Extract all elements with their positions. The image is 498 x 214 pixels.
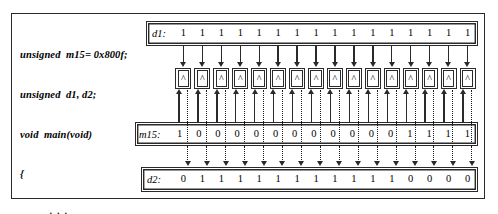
bit-d2-11: 1 [382,174,401,185]
arrowhead-down [374,161,380,166]
bit-d1-12: 1 [401,28,420,39]
dotted-connector [433,146,434,162]
code-line-ellipsis: . . . [20,207,138,211]
xor-symbol: ^ [276,73,281,83]
code-line: unsigned m15= 0x800f; [20,48,138,61]
dotted-connector [377,146,378,162]
solid-connector [443,94,444,122]
dotted-connector [433,90,434,122]
arrowhead-down [445,62,451,67]
bit-d1-2: 1 [212,28,231,39]
bit-d1-13: 1 [420,28,439,39]
register-row-d2: d2: 0111111111110000 [141,167,478,192]
bit-d1-15: 1 [458,28,477,39]
arrowhead-down [237,62,243,67]
dotted-connector [452,146,453,162]
xor-symbol: ^ [446,73,451,83]
xor-symbol: ^ [427,73,432,83]
arrowhead-down [242,161,248,166]
bit-d1-9: 1 [344,28,363,39]
solid-connector [292,94,293,122]
xor-gate-4: ^ [251,68,267,89]
arrowhead-up [270,89,276,94]
bit-d2-9: 1 [344,174,363,185]
solid-connector [424,94,425,122]
dotted-connector [282,90,283,122]
xor-gate-13: ^ [422,68,438,89]
xor-operation-figure: unsigned m15= 0x800f; unsigned d1, d2; v… [0,0,498,211]
solid-connector [235,94,236,122]
register-label-d2: d2: [142,174,174,185]
arrowhead-down [408,62,414,67]
dotted-connector [225,90,226,122]
arrowhead-down [294,62,300,67]
arrowhead-down [412,161,418,166]
solid-connector [202,46,203,63]
arrowhead-down [469,161,475,166]
bit-d2-2: 1 [212,174,231,185]
bit-d1-10: 1 [363,28,382,39]
solid-connector [406,94,407,122]
arrowhead-down [218,62,224,67]
code-line: unsigned d1, d2; [20,88,138,101]
arrowhead-down [313,62,319,67]
arrowhead-down [336,161,342,166]
bit-m15-12: 1 [400,129,419,140]
dotted-connector [339,90,340,122]
dotted-connector [377,122,378,146]
arrowhead-up [289,89,295,94]
register-bits-d2: 0111111111110000 [174,168,477,191]
bit-d1-0: 1 [174,28,193,39]
bit-d2-8: 1 [326,174,345,185]
dotted-connector [225,146,226,162]
xor-symbol: ^ [389,73,394,83]
solid-connector [429,46,430,63]
bit-d2-12: 0 [401,174,420,185]
dotted-connector [282,122,283,146]
bit-d1-1: 1 [193,28,212,39]
dotted-connector [471,122,472,146]
dotted-connector [396,122,397,146]
arrowhead-up [460,89,466,94]
dotted-connector [452,122,453,146]
xor-symbol: ^ [370,73,375,83]
xor-symbol: ^ [219,73,224,83]
solid-connector [334,46,335,63]
bit-d2-7: 1 [307,174,326,185]
xor-gate-14: ^ [441,68,457,89]
arrowhead-down [261,161,267,166]
xor-gate-2: ^ [213,68,229,89]
solid-connector [311,94,312,122]
xor-gate-3: ^ [232,68,248,89]
xor-gate-5: ^ [270,68,286,89]
dotted-connector [320,146,321,162]
dotted-connector [263,146,264,162]
arrowhead-down [431,161,437,166]
solid-connector [467,46,468,63]
arrowhead-down [279,161,285,166]
solid-connector [183,46,184,63]
arrowhead-up [214,89,220,94]
bit-d2-10: 1 [363,174,382,185]
bit-d2-0: 0 [174,174,193,185]
bit-d1-8: 1 [326,28,345,39]
dotted-connector [415,90,416,122]
arrowhead-up [176,89,182,94]
arrowhead-up [403,89,409,94]
solid-connector [315,46,316,63]
arrowhead-up [441,89,447,94]
bit-m15-14: 1 [439,129,458,140]
bit-d2-1: 1 [193,174,212,185]
arrowhead-down [351,62,357,67]
dotted-connector [415,146,416,162]
arrowhead-down [275,62,281,67]
dotted-connector [187,90,188,122]
dotted-connector [187,146,188,162]
c-code-listing: unsigned m15= 0x800f; unsigned d1, d2; v… [20,22,138,211]
solid-connector [254,94,255,122]
arrowhead-down [199,62,205,67]
bit-d1-4: 1 [250,28,269,39]
xor-symbol: ^ [200,73,205,83]
xor-gate-6: ^ [289,68,305,89]
dotted-connector [358,122,359,146]
